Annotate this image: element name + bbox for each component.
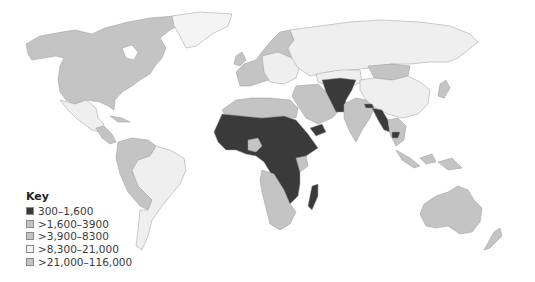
legend-title: Key [26,190,132,203]
legend-label: >21,000–116,000 [38,256,132,268]
legend-item: 300–1,600 [26,205,132,218]
legend-swatch [26,258,34,266]
region-madagascar [308,184,318,210]
region-central-america [96,126,116,144]
region-indonesia [396,150,462,170]
legend-label: >1,600–3900 [38,218,109,230]
legend-label: >3,900–8300 [38,230,109,242]
region-caribbean [110,116,130,122]
region-north-america [26,16,184,110]
region-japan [438,80,450,98]
legend-item: >21,000–116,000 [26,255,132,268]
map-legend: Key 300–1,600 >1,600–3900 >3,900–8300 >8… [26,190,132,268]
legend-item: >1,600–3900 [26,218,132,231]
legend-swatch [26,245,34,253]
legend-label: >8,300–21,000 [38,243,119,255]
legend-item: >8,300–21,000 [26,243,132,256]
region-australia [420,186,482,234]
region-mexico [60,100,104,132]
legend-swatch [26,207,34,215]
region-new-zealand [484,228,502,250]
legend-swatch [26,220,34,228]
legend-item: >3,900–8300 [26,230,132,243]
legend-label: 300–1,600 [38,205,93,217]
region-greenland [172,12,232,48]
legend-swatch [26,232,34,240]
region-horn-of-africa [310,124,326,136]
region-nepal [364,104,374,108]
